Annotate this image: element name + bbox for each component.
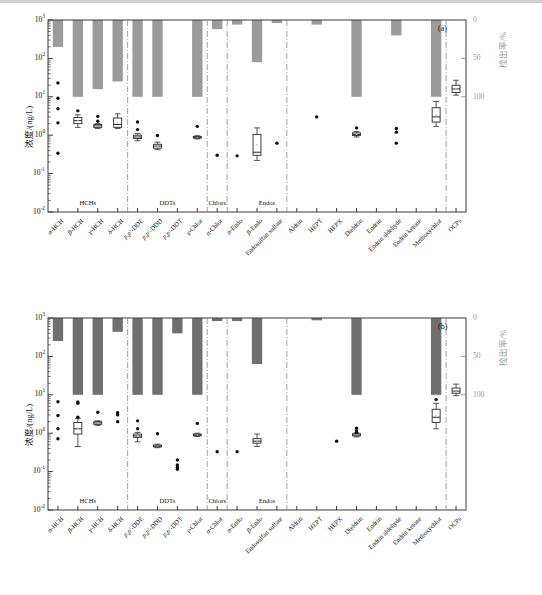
- y-axis-ticks-left: [48, 318, 53, 510]
- data-point: [196, 422, 199, 425]
- detection-rate-bars: [53, 318, 442, 395]
- data-point: [156, 134, 159, 137]
- bar-10: [252, 318, 262, 364]
- data-point: [96, 120, 99, 123]
- y-tick-left-5: 10-2: [14, 207, 45, 216]
- data-point: [56, 121, 59, 124]
- y-axis-ticks-right: [461, 318, 466, 395]
- group-separators: [128, 318, 446, 510]
- data-point: [56, 427, 59, 430]
- box-plots: [56, 384, 460, 471]
- y-axis-ticks-right: [461, 20, 466, 97]
- y-axis-ticks-left: [48, 20, 53, 212]
- detection-rate-bars: [53, 20, 442, 97]
- y-tick-left-2: 101: [14, 389, 45, 398]
- x-axis-ticks: [58, 506, 456, 510]
- group-separators: [128, 20, 446, 212]
- bar-8: [212, 20, 222, 29]
- bar-4: [132, 20, 142, 97]
- data-point: [136, 427, 139, 430]
- bar-3: [112, 318, 122, 332]
- bar-2: [93, 20, 103, 89]
- box-plots: [56, 80, 460, 160]
- bar-15: [351, 318, 361, 395]
- group-label-1: DDTs: [141, 199, 193, 206]
- data-point: [395, 130, 398, 133]
- data-point: [434, 398, 437, 401]
- panel-label-a: (a): [438, 24, 447, 33]
- y-tick-left-5: 10-2: [14, 505, 45, 514]
- data-point: [235, 154, 238, 157]
- group-label-2: Chlors: [191, 497, 243, 504]
- data-point: [116, 420, 119, 423]
- group-label-2: Chlors: [191, 199, 243, 206]
- data-point: [395, 127, 398, 130]
- data-point: [355, 126, 358, 129]
- data-point: [96, 411, 99, 414]
- group-label-1: DDTs: [141, 497, 193, 504]
- data-point: [176, 458, 179, 461]
- bar-7: [192, 318, 202, 395]
- group-label-3: Endos: [241, 199, 293, 206]
- data-point: [56, 414, 59, 417]
- bar-15: [351, 20, 361, 97]
- y-axis-title-left: 浓度/(ng/L): [22, 404, 34, 446]
- data-point: [116, 413, 119, 416]
- bar-5: [152, 318, 162, 395]
- data-point: [136, 419, 139, 422]
- bar-0: [53, 318, 63, 341]
- bar-13: [312, 20, 322, 25]
- data-point: [76, 109, 79, 112]
- y-tick-left-1: 102: [14, 53, 45, 62]
- bar-9: [232, 20, 242, 25]
- data-point: [76, 402, 79, 405]
- y-tick-left-4: 10-1: [14, 168, 45, 177]
- bar-1: [73, 20, 83, 97]
- bar-10: [252, 20, 262, 62]
- bar-4: [132, 318, 142, 395]
- panel-label-b: (b): [438, 322, 447, 331]
- data-point: [275, 141, 278, 144]
- data-point: [176, 468, 179, 471]
- data-point: [355, 431, 358, 434]
- bar-2: [93, 318, 103, 395]
- data-point: [56, 96, 59, 99]
- y-tick-right-2: 100: [473, 390, 484, 399]
- y-tick-left-0: 103: [14, 313, 45, 322]
- group-label-0: HCHs: [62, 199, 114, 206]
- data-point: [196, 125, 199, 128]
- bar-17: [391, 20, 401, 35]
- data-point: [96, 115, 99, 118]
- x-axis-ticks: [58, 208, 456, 212]
- group-label-0: HCHs: [62, 497, 114, 504]
- data-point: [156, 432, 159, 435]
- data-point: [335, 439, 338, 442]
- y-axis-title-right: 检出率/%: [496, 330, 508, 366]
- bar-6: [172, 318, 182, 333]
- y-tick-left-4: 10-1: [14, 466, 45, 475]
- figure-canvas: 10310210110010-110-2050100浓度/(ng/L)检出率/%…: [0, 0, 542, 595]
- data-point: [56, 107, 59, 110]
- data-point: [215, 154, 218, 157]
- bar-0: [53, 20, 63, 47]
- y-axis-title-left: 浓度/(ng/L): [22, 106, 34, 148]
- y-tick-right-2: 100: [473, 92, 484, 101]
- data-point: [56, 437, 59, 440]
- y-tick-left-1: 102: [14, 351, 45, 360]
- data-point: [136, 128, 139, 131]
- bar-7: [192, 20, 202, 97]
- y-axis-title-right: 检出率/%: [496, 32, 508, 68]
- panel-b: 10310210110010-110-2050100浓度/(ng/L)检出率/%…: [0, 298, 542, 595]
- y-tick-left-0: 103: [14, 15, 45, 24]
- y-tick-right-0: 0: [473, 313, 477, 322]
- bar-3: [112, 20, 122, 81]
- data-point: [395, 141, 398, 144]
- data-point: [56, 151, 59, 154]
- bar-5: [152, 20, 162, 97]
- data-point: [76, 416, 79, 419]
- group-label-3: Endos: [241, 497, 293, 504]
- y-tick-right-1: 50: [473, 351, 481, 360]
- bar-1: [73, 318, 83, 395]
- y-tick-left-2: 101: [14, 91, 45, 100]
- data-point: [136, 120, 139, 123]
